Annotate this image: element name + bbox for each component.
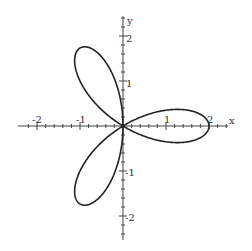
x-tick-label-neg1: -1	[76, 114, 86, 125]
x-tick-label-pos1: 1	[164, 114, 170, 125]
x-tick-label-pos2: 2	[207, 114, 213, 125]
y-tick-label-pos2: 2	[126, 33, 132, 44]
y-axis-label: y	[126, 15, 133, 26]
polar-rose-plot: x y -2 -1 1 2 2 1 -1 -2	[0, 0, 252, 251]
y-tick-label-neg1: -1	[125, 167, 135, 178]
y-tick-label-pos1: 1	[126, 78, 132, 89]
y-tick-label-neg2: -2	[125, 212, 135, 223]
x-axis-label: x	[229, 115, 235, 126]
x-tick-label-neg2: -2	[32, 114, 42, 125]
